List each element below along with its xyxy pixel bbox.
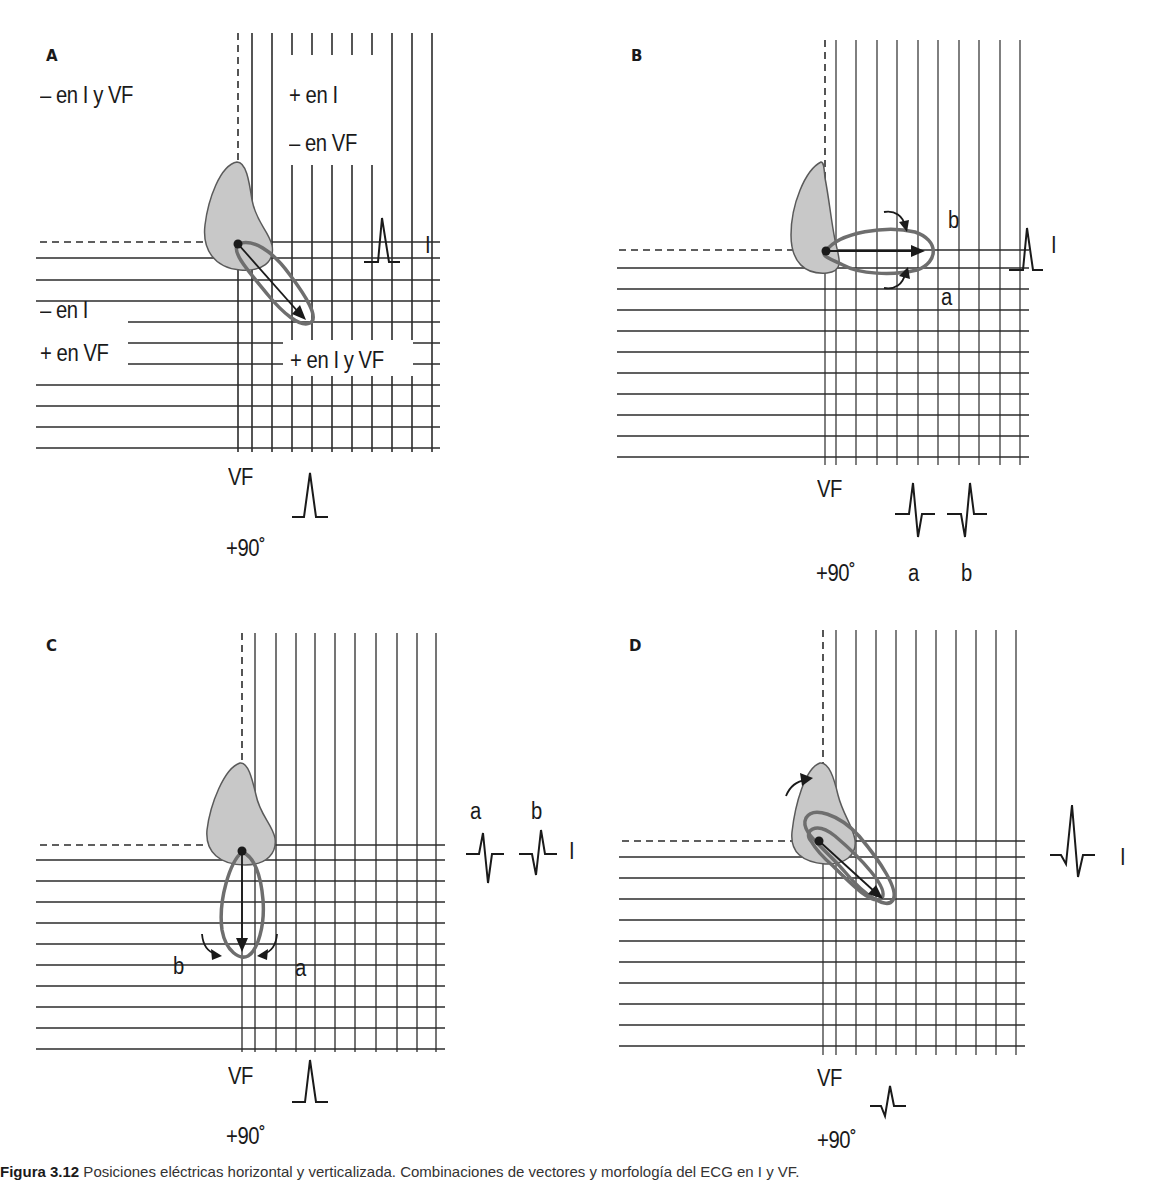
- figure-caption: Figura 3.12 Posiciones eléctricas horizo…: [0, 1163, 1154, 1180]
- lead-vf-label: VF: [228, 1063, 253, 1090]
- lead-i-label: I: [425, 232, 430, 259]
- panel-c-diagram: [0, 600, 577, 1180]
- ecg-lead-vf-complex-icon: [870, 1086, 906, 1116]
- origin-dot: [238, 847, 247, 856]
- axis-dashed: [622, 630, 823, 841]
- panel-d-diagram: [577, 600, 1154, 1180]
- lead-i-complex-label-b: b: [531, 798, 542, 825]
- ecg-lead-i-complex-icon: [364, 218, 400, 262]
- ecg-lead-i-complex-icon: [1050, 805, 1095, 877]
- arrowhead-icon: [236, 938, 248, 952]
- panel-b-diagram: [577, 0, 1154, 580]
- lead-vf-label: VF: [817, 1065, 842, 1092]
- panel-b: B b a I VF +90˚ a b: [577, 0, 1154, 580]
- quadrant-label-upper-right-1: + en I: [289, 82, 338, 109]
- vertical-grid-lines: [825, 40, 1020, 465]
- ecg-vf-complex-b-icon: [947, 483, 987, 537]
- lead-vf-label: VF: [817, 476, 842, 503]
- ecg-vf-complex-a-icon: [895, 483, 935, 537]
- quadrant-label-lower-left-1: – en I: [40, 297, 88, 324]
- heart-shape: [791, 162, 839, 273]
- loop-label-a: a: [941, 284, 952, 311]
- panel-letter: B: [631, 47, 642, 65]
- loop-label-b: b: [948, 207, 959, 234]
- angle-label: +90˚: [226, 535, 265, 562]
- panel-letter: A: [46, 47, 58, 65]
- angle-label: +90˚: [817, 1127, 856, 1154]
- angle-label: +90˚: [816, 560, 855, 587]
- caption-label: Figura 3.12: [0, 1163, 79, 1180]
- panel-d: D I VF +90˚: [577, 600, 1154, 1180]
- panel-c: C b a a b I VF +90˚: [0, 600, 577, 1180]
- ecg-lead-vf-complex-icon: [292, 1060, 328, 1102]
- panel-a: A – en I y VF + en I – en VF – en I + en…: [0, 0, 577, 580]
- lead-i-label: I: [1051, 232, 1056, 259]
- origin-dot: [822, 247, 831, 256]
- caption-text: Posiciones eléctricas horizontal y verti…: [79, 1163, 799, 1180]
- ecg-lead-i-complex-a-icon: [466, 833, 504, 883]
- loop-label-b: b: [173, 953, 184, 980]
- ecg-lead-vf-complex-icon: [292, 473, 328, 517]
- lead-i-label: I: [569, 838, 574, 865]
- quadrant-label-upper-left: – en I y VF: [40, 82, 133, 109]
- horizontal-grid-lines: [617, 250, 1029, 457]
- loop-label-a: a: [295, 955, 306, 982]
- quadrant-label-lower-left-2: + en VF: [40, 340, 108, 367]
- angle-label: +90˚: [226, 1123, 265, 1150]
- lead-i-complex-label-a: a: [470, 798, 481, 825]
- panel-letter: C: [46, 637, 57, 655]
- vf-complex-label-a: a: [908, 560, 919, 587]
- horizontal-grid-lines: [619, 841, 1025, 1046]
- quadrant-label-upper-right-2: – en VF: [289, 130, 357, 157]
- ecg-lead-i-complex-icon: [1009, 228, 1043, 270]
- vf-complex-label-b: b: [961, 560, 972, 587]
- origin-dot: [234, 240, 243, 249]
- ecg-lead-i-complex-b-icon: [519, 830, 557, 875]
- lead-i-label: I: [1120, 844, 1125, 871]
- origin-dot: [815, 837, 824, 846]
- quadrant-label-lower-right: + en I y VF: [290, 347, 384, 374]
- panel-letter: D: [629, 637, 641, 655]
- lead-vf-label: VF: [228, 464, 253, 491]
